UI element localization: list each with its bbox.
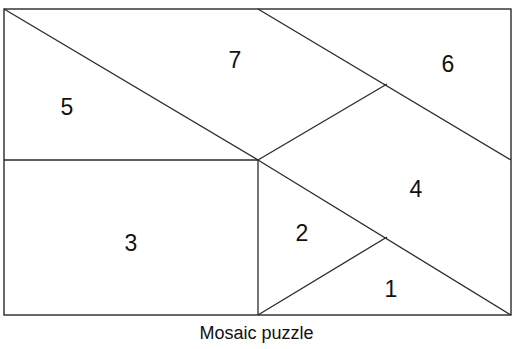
piece-label-3: 3 — [125, 232, 138, 255]
piece-label-6: 6 — [442, 53, 455, 76]
segment-diagonal-bottom-center-up-right — [258, 237, 387, 315]
mosaic-puzzle-diagram — [0, 0, 513, 349]
segment-diagonal-top-left-to-center — [4, 9, 258, 160]
puzzle-segments — [4, 9, 511, 315]
piece-label-2: 2 — [296, 222, 309, 245]
piece-label-1: 1 — [385, 278, 398, 301]
diagram-caption: Mosaic puzzle — [0, 324, 513, 342]
piece-label-5: 5 — [61, 96, 74, 119]
piece-label-7: 7 — [229, 49, 242, 72]
piece-label-4: 4 — [410, 178, 423, 201]
segment-diagonal-center-up-right — [258, 84, 387, 160]
